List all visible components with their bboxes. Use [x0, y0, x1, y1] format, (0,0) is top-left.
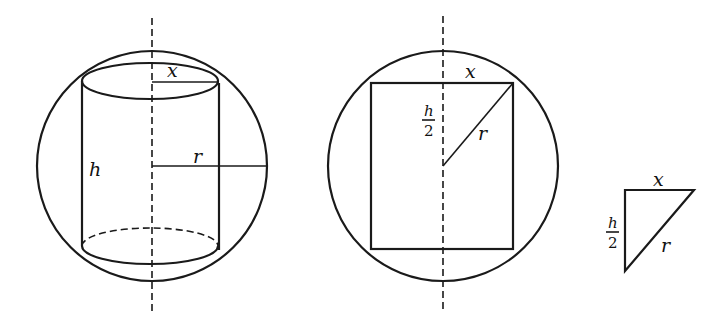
- label-x-middle: x: [465, 60, 476, 82]
- cylinder-bottom-front-arc: [82, 246, 218, 264]
- label-h-half-denominator-triangle: 2: [608, 234, 618, 252]
- label-h-left: h: [89, 158, 101, 180]
- label-x-left: x: [167, 59, 178, 81]
- label-x-triangle: x: [653, 168, 664, 190]
- cylinder-top-ellipse: [82, 63, 218, 99]
- panel-cylinder-in-sphere: x h r: [37, 18, 267, 313]
- label-h-half-numerator: h: [424, 102, 434, 120]
- label-r-middle: r: [478, 122, 489, 144]
- panel-right-triangle: x h 2 r: [606, 168, 694, 271]
- label-r-triangle: r: [661, 234, 672, 256]
- panel-cross-section: x h 2 r: [328, 16, 558, 310]
- label-r-left: r: [193, 145, 204, 167]
- label-h-half-denominator: 2: [424, 122, 434, 140]
- right-triangle: [625, 190, 694, 271]
- diagram-canvas: x h r x h 2 r x h 2 r: [0, 0, 726, 324]
- label-h-half-numerator-triangle: h: [608, 214, 618, 232]
- cylinder-bottom-back-arc: [82, 228, 218, 246]
